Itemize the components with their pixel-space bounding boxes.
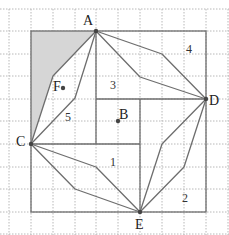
- region-3-label: 3: [110, 78, 116, 92]
- point-A: [94, 29, 98, 33]
- point-F: [61, 86, 65, 90]
- label-A: A: [83, 13, 94, 28]
- label-B: B: [119, 107, 128, 122]
- path-D-E-outer: [140, 99, 206, 212]
- point-C: [29, 142, 33, 146]
- path-C-E-inner: [31, 144, 140, 212]
- point-E: [138, 210, 142, 214]
- label-E: E: [135, 217, 144, 232]
- region-4-label: 4: [186, 42, 192, 56]
- region-1-label: 1: [110, 155, 116, 169]
- point-D: [204, 97, 208, 101]
- label-F: F: [53, 79, 61, 94]
- label-C: C: [16, 134, 25, 149]
- path-C-E-outer: [31, 144, 140, 212]
- geometry-diagram: A B C D E F 1 2 3 4 5: [0, 0, 229, 235]
- region-2-label: 2: [182, 191, 188, 205]
- path-D-E-inner: [140, 99, 206, 212]
- label-D: D: [209, 93, 219, 108]
- region-5-label: 5: [65, 110, 71, 124]
- region-labels: 1 2 3 4 5: [65, 42, 192, 205]
